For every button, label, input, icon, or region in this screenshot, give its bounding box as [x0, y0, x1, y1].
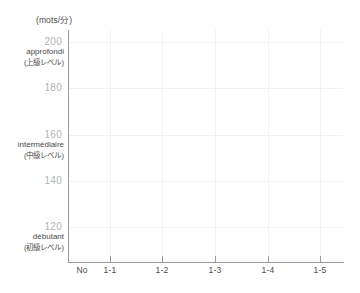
x-axis-tick-label-1-5: 1-5: [303, 265, 337, 275]
gridline-vertical: [268, 30, 269, 262]
y-axis-level-advanced-ja: (上級レベル): [0, 58, 64, 69]
x-axis-tick-mark: [215, 256, 216, 263]
gridline-vertical: [162, 30, 163, 262]
x-axis-tick-mark: [268, 256, 269, 263]
y-axis-level-beginner: débutant (初級レベル): [0, 232, 64, 253]
y-axis-tick-label-120: 120: [18, 221, 62, 232]
x-axis-tick-label-1-3: 1-3: [198, 265, 232, 275]
x-axis-tick-label-1-4: 1-4: [251, 265, 285, 275]
y-axis-level-beginner-ja: (初級レベル): [0, 243, 64, 254]
gridline-vertical: [215, 30, 216, 262]
y-axis-tick-label-200: 200: [18, 36, 62, 47]
y-axis-level-intermediate-fr: intermédiaire: [18, 140, 64, 149]
y-axis-level-advanced-fr: approfondi: [26, 47, 64, 56]
y-axis-level-advanced: approfondi (上級レベル): [0, 47, 64, 68]
x-axis-tick-label-1-1: 1-1: [93, 265, 127, 275]
y-axis-level-intermediate: intermédiaire (中級レベル): [0, 140, 64, 161]
x-axis-tick-mark: [320, 256, 321, 263]
x-axis-tick-mark: [162, 256, 163, 263]
chart-figure: (mots/分) 200 180 160 140 120 approfondi …: [0, 0, 360, 293]
y-axis-tick-label-160: 160: [18, 129, 62, 140]
y-axis-tick-label-180: 180: [18, 82, 62, 93]
y-axis-tick-label-140: 140: [18, 175, 62, 186]
y-axis-level-intermediate-ja: (中級レベル): [0, 151, 64, 162]
x-axis-name-label: No: [70, 265, 94, 275]
x-axis-tick-label-1-2: 1-2: [145, 265, 179, 275]
x-axis-tick-mark: [110, 256, 111, 263]
gridline-vertical: [320, 30, 321, 262]
y-axis-line: [68, 30, 69, 263]
y-axis-level-beginner-fr: débutant: [33, 232, 64, 241]
plot-area: [68, 30, 343, 262]
y-axis-unit-label: (mots/分): [36, 13, 72, 25]
gridline-vertical: [110, 30, 111, 262]
